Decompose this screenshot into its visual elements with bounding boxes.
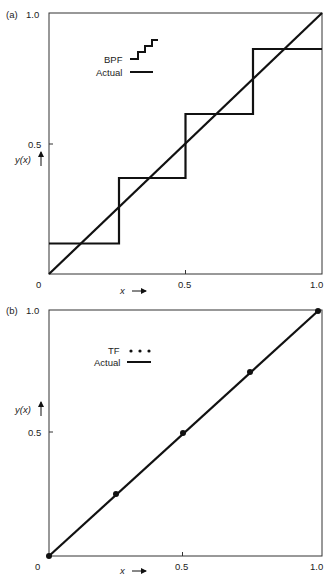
x-tick-label: 0.5 (175, 561, 188, 572)
figure: (a) 1.0 0.5 0 0.5 1.0 x y(x) BPF Actual … (0, 0, 334, 586)
legend-label-actual: Actual (96, 67, 122, 78)
legend-label-bpf: BPF (104, 54, 123, 65)
y-tick-label: 0.5 (28, 139, 41, 150)
panel-label: (b) (6, 305, 18, 316)
x-axis-label: x (119, 285, 126, 296)
legend-label-tf: TF (108, 345, 120, 356)
panel-a: (a) 1.0 0.5 0 0.5 1.0 x y(x) BPF Actual (6, 9, 323, 296)
series-bpf (49, 49, 322, 244)
legend-label-actual: Actual (94, 357, 120, 368)
panel-b: (b) 1.0 0.5 0 0.5 1.0 x y(x) TF Actual (6, 305, 323, 576)
legend-swatch-bpf (130, 40, 158, 59)
x-axis-label: x (119, 565, 126, 576)
y-tick-label: 1.0 (26, 305, 39, 316)
y-tick-label: 1.0 (26, 9, 39, 20)
x-tick-label: 0 (36, 279, 41, 290)
y-tick-label: 0.5 (28, 427, 41, 438)
x-tick-label: 1.0 (310, 279, 323, 290)
panel-label: (a) (6, 9, 18, 20)
x-tick-label: 0.5 (178, 279, 191, 290)
x-tick-label: 0 (35, 561, 40, 572)
y-axis-label: y(x) (14, 404, 31, 415)
legend-swatch-tf (129, 349, 150, 352)
y-axis-label: y(x) (14, 154, 31, 165)
x-tick-label: 1.0 (310, 561, 323, 572)
